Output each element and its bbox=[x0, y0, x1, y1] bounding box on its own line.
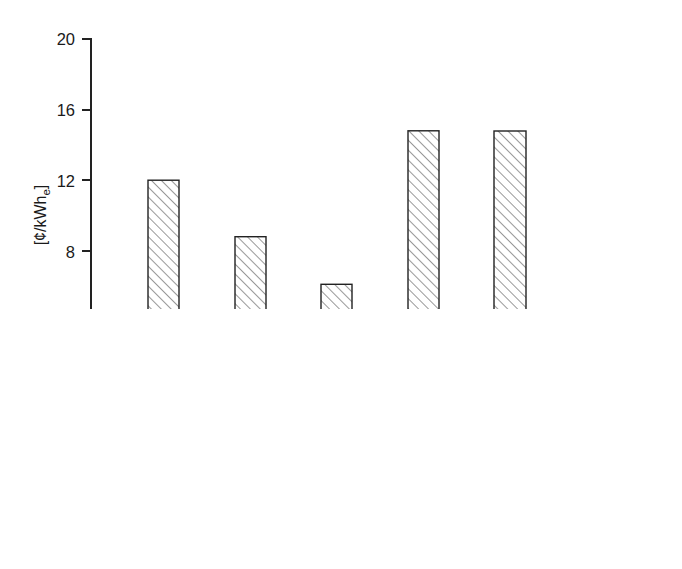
svg-text:[¢/kWhe]: [¢/kWhe] bbox=[32, 185, 52, 246]
y-axis-title-close: ] bbox=[32, 185, 49, 189]
y-axis-title: [¢/kWhe] bbox=[32, 185, 52, 246]
bar-segs-vii[interactable] bbox=[235, 237, 266, 309]
bar-battelle-long-term-goal[interactable] bbox=[494, 131, 526, 309]
y-tick-labels: 20 16 12 8 4 0 bbox=[57, 30, 75, 309]
y-tick-label-12: 12 bbox=[57, 172, 75, 190]
bar-segs-near-future[interactable] bbox=[321, 284, 352, 309]
y-tick-label-8: 8 bbox=[66, 243, 75, 261]
bar-chart-svg: 20 16 12 8 4 0 [¢/kWhe] SEGS III 30 MW bbox=[0, 0, 682, 309]
y-tick-marks bbox=[82, 39, 91, 309]
bars-group bbox=[148, 131, 526, 309]
y-tick-label-16: 16 bbox=[57, 101, 75, 119]
chart-figure: 20 16 12 8 4 0 [¢/kWhe] SEGS III 30 MW bbox=[0, 0, 682, 569]
y-axis-title-main: [¢/kWh bbox=[32, 196, 49, 246]
bar-segs-mid-term-goal[interactable] bbox=[408, 131, 439, 309]
y-tick-label-20: 20 bbox=[57, 30, 75, 48]
bar-segs-iii[interactable] bbox=[148, 180, 179, 309]
